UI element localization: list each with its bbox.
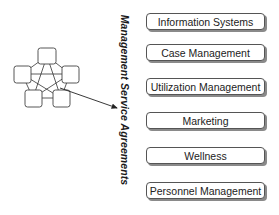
box-personnel-management: Personnel Management (146, 182, 265, 199)
box-case-management: Case Management (146, 44, 265, 61)
box-information-systems: Information Systems (146, 13, 265, 30)
network-node-bottom-left (25, 90, 42, 107)
box-marketing: Marketing (146, 112, 265, 129)
network-node-left (14, 66, 31, 83)
box-utilization-management: Utilization Management (146, 78, 265, 95)
network-node-top (38, 48, 56, 64)
network-node-right (62, 66, 79, 83)
box-wellness: Wellness (146, 147, 265, 164)
management-service-agreements-label: Management Service Agreements (119, 15, 131, 186)
network-node-bottom-right (53, 90, 70, 107)
